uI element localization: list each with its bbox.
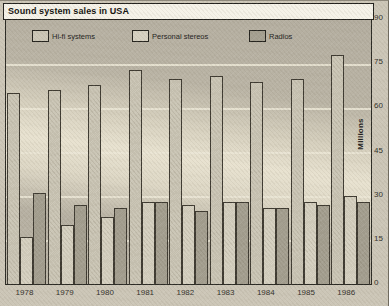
y-tick-label-30: 30 xyxy=(374,190,389,200)
x-tick-label-1983: 1983 xyxy=(211,288,241,297)
bar-group-1981 xyxy=(128,20,169,284)
bar-hi-fi-systems-1985 xyxy=(291,79,304,284)
bar-personal-stereos-1981 xyxy=(142,202,155,284)
bar-personal-stereos-1979 xyxy=(61,225,74,284)
bar-personal-stereos-1985 xyxy=(304,202,317,284)
bars-layer xyxy=(6,20,371,284)
y-axis-title: Millions xyxy=(356,103,368,165)
legend-label-radios: Radios xyxy=(269,32,292,41)
legend-swatch-personal-stereos xyxy=(132,30,149,42)
x-tick-label-1979: 1979 xyxy=(50,288,80,297)
bar-group-1980 xyxy=(87,20,128,284)
x-tick-label-1984: 1984 xyxy=(251,288,281,297)
bar-hi-fi-systems-1984 xyxy=(250,82,263,284)
y-tick-label-75: 75 xyxy=(374,57,389,67)
bar-group-1984 xyxy=(249,20,290,284)
y-tick-label-15: 15 xyxy=(374,234,389,244)
legend-swatch-hi-fi-systems xyxy=(32,30,49,42)
bar-group-1983 xyxy=(209,20,250,284)
bar-personal-stereos-1978 xyxy=(20,237,33,284)
x-tick-label-1986: 1986 xyxy=(331,288,361,297)
bar-hi-fi-systems-1981 xyxy=(129,70,142,284)
bar-hi-fi-systems-1980 xyxy=(88,85,101,284)
bar-hi-fi-systems-1982 xyxy=(169,79,182,284)
bar-personal-stereos-1984 xyxy=(263,208,276,284)
bar-radios-1978 xyxy=(33,193,46,284)
bar-personal-stereos-1983 xyxy=(223,202,236,284)
bar-radios-1983 xyxy=(236,202,249,284)
bar-radios-1980 xyxy=(114,208,127,284)
x-tick-label-1981: 1981 xyxy=(130,288,160,297)
x-tick-label-1985: 1985 xyxy=(291,288,321,297)
legend-item-personal-stereos: Personal stereos xyxy=(132,30,208,42)
y-tick-label-90: 90 xyxy=(374,13,389,23)
bar-radios-1979 xyxy=(74,205,87,284)
bar-group-1978 xyxy=(6,20,47,284)
chart: Sound system sales in USA Hi-fi systemsP… xyxy=(0,0,389,306)
legend-swatch-radios xyxy=(249,30,266,42)
bar-hi-fi-systems-1978 xyxy=(7,93,20,284)
y-tick-label-60: 60 xyxy=(374,101,389,111)
legend-label-hi-fi-systems: Hi-fi systems xyxy=(52,32,95,41)
bar-radios-1982 xyxy=(195,211,208,284)
bar-hi-fi-systems-1979 xyxy=(48,90,61,284)
chart-title-bar: Sound system sales in USA xyxy=(3,3,374,20)
chart-title: Sound system sales in USA xyxy=(4,4,373,16)
plot-area: Hi-fi systemsPersonal stereosRadios xyxy=(5,19,372,285)
bar-group-1985 xyxy=(290,20,331,284)
bar-personal-stereos-1986 xyxy=(344,196,357,284)
x-tick-label-1982: 1982 xyxy=(170,288,200,297)
legend: Hi-fi systemsPersonal stereosRadios xyxy=(6,30,371,46)
x-tick-label-1980: 1980 xyxy=(90,288,120,297)
legend-item-radios: Radios xyxy=(249,30,292,42)
bar-personal-stereos-1980 xyxy=(101,217,114,284)
bar-radios-1985 xyxy=(317,205,330,284)
bar-hi-fi-systems-1986 xyxy=(331,55,344,284)
bar-personal-stereos-1982 xyxy=(182,205,195,284)
x-tick-label-1978: 1978 xyxy=(10,288,40,297)
bar-hi-fi-systems-1983 xyxy=(210,76,223,284)
y-tick-label-45: 45 xyxy=(374,146,389,156)
bar-group-1982 xyxy=(168,20,209,284)
legend-label-personal-stereos: Personal stereos xyxy=(152,32,208,41)
bar-radios-1986 xyxy=(357,202,370,284)
bar-radios-1981 xyxy=(155,202,168,284)
legend-item-hi-fi-systems: Hi-fi systems xyxy=(32,30,95,42)
bar-group-1979 xyxy=(47,20,88,284)
y-tick-label-0: 0 xyxy=(374,278,389,288)
bar-radios-1984 xyxy=(276,208,289,284)
